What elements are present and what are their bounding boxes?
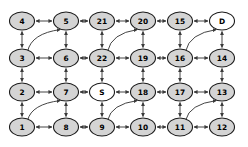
graph-node-6[interactable]: 6 [54, 49, 79, 67]
graph-node-1[interactable]: 1 [10, 118, 35, 136]
graph-node-8[interactable]: 8 [54, 118, 79, 136]
node-label-S: S [99, 88, 104, 97]
node-label-16: 16 [175, 54, 185, 63]
edge-layer [22, 21, 222, 127]
node-label-22: 22 [97, 54, 107, 63]
graph-node-17[interactable]: 17 [168, 83, 193, 101]
graph-node-13[interactable]: 13 [210, 83, 235, 101]
curved-edge-1-to-7 [28, 101, 61, 121]
node-label-14: 14 [217, 54, 227, 63]
graph-node-3[interactable]: 3 [10, 49, 35, 67]
node-label-17: 17 [175, 88, 185, 97]
graph-node-19[interactable]: 19 [131, 49, 156, 67]
node-label-12: 12 [217, 123, 227, 132]
graph-node-D[interactable]: D [210, 12, 235, 30]
node-label-9: 9 [99, 123, 104, 132]
graph-node-7[interactable]: 7 [54, 83, 79, 101]
graph-diagram-canvas: 45212015D362219161427S181713189101112 [0, 0, 248, 147]
node-label-6: 6 [63, 54, 68, 63]
graph-node-22[interactable]: 22 [90, 49, 115, 67]
graph-node-S[interactable]: S [90, 83, 115, 101]
node-label-19: 19 [138, 54, 148, 63]
curved-edge-layer [28, 30, 217, 121]
node-label-3: 3 [19, 54, 24, 63]
node-label-D: D [219, 17, 225, 26]
node-label-1: 1 [19, 123, 24, 132]
graph-node-11[interactable]: 11 [168, 118, 193, 136]
curved-edge-16-to-D [186, 30, 217, 52]
node-label-18: 18 [138, 88, 148, 97]
node-label-5: 5 [63, 17, 68, 26]
node-label-10: 10 [138, 123, 148, 132]
node-layer: 45212015D362219161427S181713189101112 [10, 12, 235, 136]
graph-node-9[interactable]: 9 [90, 118, 115, 136]
graph-node-20[interactable]: 20 [131, 12, 156, 30]
node-label-21: 21 [97, 17, 107, 26]
graph-node-5[interactable]: 5 [54, 12, 79, 30]
node-label-8: 8 [63, 123, 68, 132]
curved-edge-3-to-5 [28, 30, 61, 52]
graph-node-12[interactable]: 12 [210, 118, 235, 136]
node-label-7: 7 [63, 88, 68, 97]
graph-node-16[interactable]: 16 [168, 49, 193, 67]
node-label-20: 20 [138, 17, 148, 26]
curved-edge-9-to-18 [108, 101, 138, 121]
graph-node-21[interactable]: 21 [90, 12, 115, 30]
curved-edge-22-to-20 [108, 30, 138, 52]
node-label-15: 15 [175, 17, 185, 26]
graph-node-4[interactable]: 4 [10, 12, 35, 30]
graph-node-14[interactable]: 14 [210, 49, 235, 67]
graph-node-15[interactable]: 15 [168, 12, 193, 30]
node-label-4: 4 [19, 17, 24, 26]
graph-node-10[interactable]: 10 [131, 118, 156, 136]
graph-node-18[interactable]: 18 [131, 83, 156, 101]
graph-svg: 45212015D362219161427S181713189101112 [0, 0, 248, 147]
node-label-13: 13 [217, 88, 227, 97]
curved-edge-11-to-13 [186, 101, 217, 121]
node-label-11: 11 [175, 123, 185, 132]
graph-node-2[interactable]: 2 [10, 83, 35, 101]
node-label-2: 2 [19, 88, 24, 97]
